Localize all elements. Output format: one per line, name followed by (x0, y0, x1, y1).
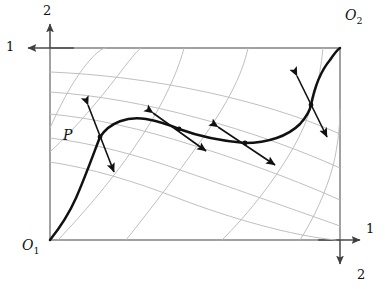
axis-label-2-top: 2 (43, 4, 51, 17)
allocation-point-label-p: P (63, 128, 72, 142)
ic2-curve-1 (50, 48, 106, 128)
ic2-curve-6 (300, 110, 340, 240)
diagram-canvas (0, 0, 388, 289)
price-line-at-point-2 (153, 113, 206, 151)
price-line-at-point-3 (218, 127, 275, 165)
origin-label-o1-letter: O (22, 237, 33, 253)
axis-label-2-bottom: 2 (357, 268, 365, 281)
origin-label-o2-letter: O (345, 7, 356, 23)
ic2-curve-4 (126, 48, 248, 240)
ic2-curve-5 (222, 48, 323, 240)
edgeworth-box-figure: 2 1 1 2 O1 O2 P (0, 0, 388, 289)
tangency-point-markers (98, 103, 314, 146)
origin-label-o2: O2 (345, 8, 363, 25)
origin-label-o1: O1 (22, 238, 40, 255)
axis-label-1-left: 1 (6, 40, 14, 53)
origin-label-o2-subscript: 2 (356, 15, 362, 26)
tangency-point-2 (177, 127, 182, 132)
ic1-curve-1 (50, 72, 340, 134)
origin-label-o1-subscript: 1 (33, 245, 39, 256)
tangency-point-3 (243, 141, 248, 146)
axis-label-1-right: 1 (366, 222, 374, 235)
tangency-point-P (98, 135, 103, 140)
price-line-double-arrows (88, 76, 327, 172)
tangency-point-4 (309, 103, 314, 108)
